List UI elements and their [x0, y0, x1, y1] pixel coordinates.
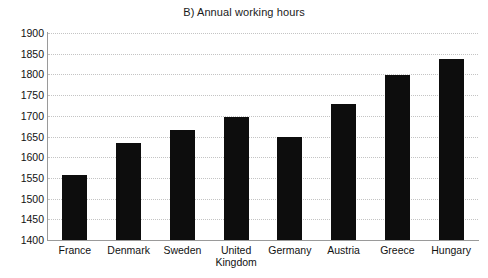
gridline: [48, 54, 478, 55]
y-axis-tick-label: 1650: [0, 132, 44, 142]
y-axis-tick-label: 1750: [0, 90, 44, 100]
bar: [62, 175, 87, 240]
bar: [170, 130, 195, 240]
chart-title: B) Annual working hours: [0, 6, 488, 18]
x-axis-tick-label: Germany: [263, 244, 317, 256]
x-axis-line: [47, 240, 479, 241]
x-axis-tick-label: Sweden: [156, 244, 210, 256]
bar: [439, 59, 464, 240]
plot-area: [48, 33, 478, 240]
y-axis-tick-label: 1400: [0, 235, 44, 245]
x-axis-tick-label: United Kingdom: [209, 244, 263, 268]
y-axis-tick-label: 1500: [0, 194, 44, 204]
gridline: [48, 199, 478, 200]
bar: [224, 117, 249, 240]
gridline: [48, 219, 478, 220]
y-axis-tick-label: 1850: [0, 49, 44, 59]
bar: [277, 137, 302, 241]
bar: [385, 75, 410, 240]
y-axis-tick-label: 1900: [0, 28, 44, 38]
x-axis-tick-label: Austria: [317, 244, 371, 256]
gridline: [48, 116, 478, 117]
bar: [116, 143, 141, 240]
bar: [331, 104, 356, 240]
y-axis-tick-label: 1600: [0, 152, 44, 162]
gridline: [48, 74, 478, 75]
y-axis-tick-labels: 1400145015001550160016501700175018001850…: [0, 0, 44, 278]
y-axis-tick-label: 1450: [0, 214, 44, 224]
x-axis-tick-label: France: [48, 244, 102, 256]
y-axis-tick-label: 1550: [0, 173, 44, 183]
y-axis-tick-label: 1800: [0, 69, 44, 79]
bar-chart-figure: B) Annual working hours 1400145015001550…: [0, 0, 488, 278]
x-axis-tick-label: Greece: [371, 244, 425, 256]
x-axis-tick-label: Hungary: [424, 244, 478, 256]
gridline: [48, 95, 478, 96]
gridline: [48, 33, 478, 34]
gridline: [48, 157, 478, 158]
y-axis-tick-label: 1700: [0, 111, 44, 121]
gridline: [48, 137, 478, 138]
gridline: [48, 178, 478, 179]
x-axis-tick-label: Denmark: [102, 244, 156, 256]
